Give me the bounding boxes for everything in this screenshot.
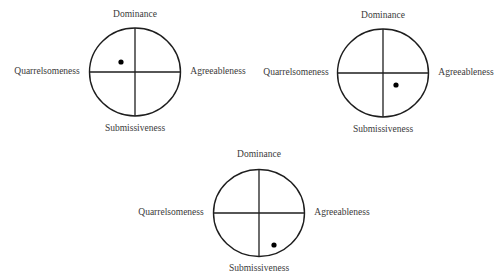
axis-label-left: Quarrelsomeness [263, 68, 328, 78]
axis-label-bottom: Submissiveness [353, 125, 413, 135]
axis-label-top: Dominance [361, 11, 405, 21]
axis-label-right: Agreeableness [190, 67, 245, 77]
axis-label-bottom: Submissiveness [105, 124, 165, 134]
position-dot [271, 242, 276, 247]
axis-label-right: Agreeableness [438, 68, 493, 78]
axis-label-top: Dominance [113, 10, 157, 20]
axis-label-left: Quarrelsomeness [138, 208, 203, 218]
circumplex-diagram [0, 0, 504, 279]
circumplex-panel-2 [338, 29, 429, 117]
position-dot [118, 59, 123, 64]
axis-label-bottom: Submissiveness [229, 264, 289, 274]
axis-label-right: Agreeableness [314, 208, 369, 218]
axis-label-top: Dominance [237, 150, 281, 160]
circumplex-panel-1 [90, 28, 181, 116]
position-dot [393, 82, 398, 87]
circumplex-panel-3 [214, 170, 305, 257]
axis-label-left: Quarrelsomeness [14, 67, 79, 77]
